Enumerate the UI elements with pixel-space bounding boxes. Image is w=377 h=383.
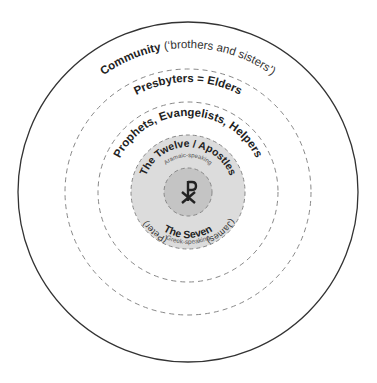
- presbyters-label: Presbyters = Elders: [132, 72, 245, 97]
- community-label: Community (‘brothers and sisters’): [98, 38, 279, 77]
- community-label-bold: Community: [98, 41, 162, 77]
- concentric-church-structure-diagram: Community (‘brothers and sisters’) Presb…: [0, 0, 377, 383]
- community-label-note: (‘brothers and sisters’): [159, 38, 278, 77]
